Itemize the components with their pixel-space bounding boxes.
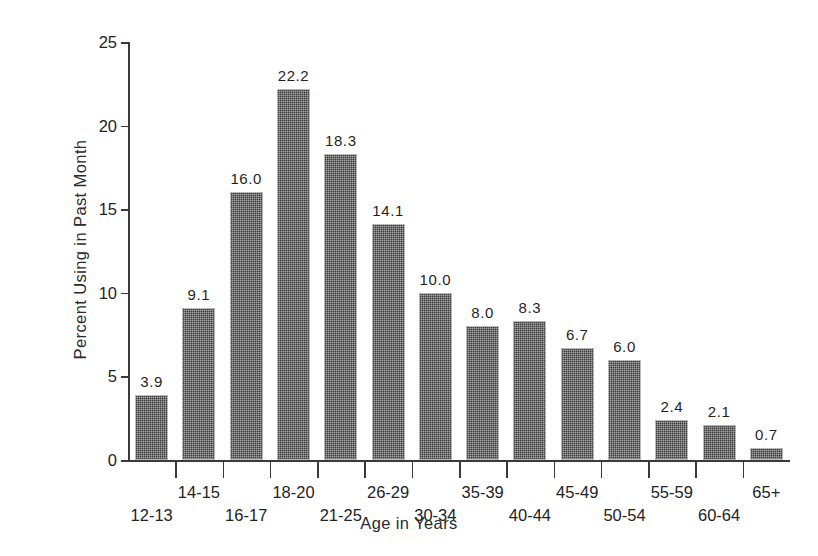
x-tick-mark [648,461,650,478]
y-tick-label: 10 [99,283,117,302]
bar [703,425,736,460]
bar-value-label: 8.0 [471,304,494,321]
x-tick-label: 35-39 [462,483,504,502]
bar [230,192,263,460]
x-tick-mark [743,461,745,478]
bar [324,154,357,460]
bar [466,326,499,460]
x-tick-mark [364,461,366,478]
x-tick-mark [554,461,556,478]
bar-value-label: 6.0 [613,338,636,355]
bar-value-label: 2.1 [708,403,731,420]
bar-value-label: 2.4 [660,398,683,415]
bar [135,395,168,460]
bar [750,448,783,460]
x-tick-label: 45-49 [556,483,598,502]
bar [182,308,215,460]
x-tick-mark [695,461,697,478]
bar-value-label: 3.9 [140,373,163,390]
y-tick-label: 5 [108,367,117,386]
y-tick-label: 20 [99,116,117,135]
y-tick-mark [121,42,128,44]
x-tick-label: 65+ [752,483,780,502]
bar [277,89,310,460]
x-tick-mark [175,461,177,478]
bar-value-label: 14.1 [372,202,404,219]
x-tick-label: 26-29 [367,483,409,502]
bar [608,360,641,460]
bar-value-label: 8.3 [519,299,542,316]
x-tick-mark [412,461,414,478]
bar [513,321,546,460]
bar [419,293,452,460]
bar-value-label: 6.7 [566,326,589,343]
bar-value-label: 18.3 [325,132,357,149]
bar [655,420,688,460]
y-tick-label: 15 [99,200,117,219]
y-tick-mark [121,460,128,462]
x-tick-mark [601,461,603,478]
y-tick-mark [121,376,128,378]
x-tick-label: 14-15 [178,483,220,502]
y-tick-mark [121,293,128,295]
bar-value-label: 9.1 [188,286,211,303]
y-tick-mark [121,126,128,128]
plot-area: 0510152025 3.99.116.022.218.314.110.08.0… [128,42,790,460]
bar [372,224,405,460]
y-axis-title: Percent Using in Past Month [71,40,90,460]
bar-value-label: 22.2 [278,67,310,84]
x-axis-title: Age in Years [0,514,818,533]
y-tick-label: 25 [99,33,117,52]
y-axis-line [128,42,130,461]
x-tick-label: 18-20 [272,483,314,502]
x-tick-label: 55-59 [651,483,693,502]
y-tick-label: 0 [108,451,117,470]
bar-value-label: 0.7 [755,426,778,443]
x-tick-mark [459,461,461,478]
bar-chart: Percent Using in Past Month 0510152025 3… [0,0,818,556]
x-tick-mark [506,461,508,478]
x-tick-mark [317,461,319,478]
bar-value-label: 10.0 [420,271,452,288]
x-tick-mark [270,461,272,478]
x-tick-mark [223,461,225,478]
bar-value-label: 16.0 [230,170,262,187]
bar [561,348,594,460]
y-tick-mark [121,209,128,211]
